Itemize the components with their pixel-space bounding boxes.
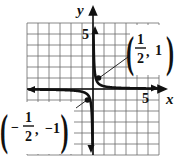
svg-text:): ) bbox=[166, 27, 174, 77]
point-half-one bbox=[96, 75, 102, 81]
annotation-neg-half-neg-one: ( − 1 2 , −1 ) bbox=[0, 102, 74, 155]
y-axis-label: y bbox=[75, 2, 84, 18]
ann2-minus: − bbox=[11, 120, 19, 135]
ann2-denominator: 2 bbox=[25, 129, 32, 144]
leader-line-2 bbox=[76, 100, 87, 108]
annotation-half-one: ( 1 2 , 1 ) bbox=[126, 25, 174, 77]
x-tick-label: 5 bbox=[142, 91, 149, 106]
ann2-numerator: 1 bbox=[25, 110, 32, 125]
svg-text:(: ( bbox=[126, 27, 134, 77]
y-axis-arrow-icon bbox=[90, 7, 97, 15]
ann1-denominator: 2 bbox=[137, 51, 144, 66]
ann2-y-value: −1 bbox=[45, 121, 60, 136]
x-axis-arrow-icon bbox=[158, 86, 166, 93]
svg-text:,: , bbox=[146, 44, 150, 59]
hyperbola-graph: y 5 5 x ( 1 2 , 1 ) ( − 1 2 , −1 ) bbox=[0, 0, 180, 158]
curve-arrow-left-icon bbox=[27, 86, 35, 93]
svg-text:): ) bbox=[61, 105, 69, 155]
leader-line-1 bbox=[99, 57, 128, 78]
x-axis-label: x bbox=[165, 91, 174, 107]
point-neg-half-neg-one bbox=[85, 97, 91, 103]
ann1-y-value: 1 bbox=[155, 43, 162, 58]
svg-text:(: ( bbox=[0, 105, 8, 155]
svg-text:,: , bbox=[35, 122, 39, 137]
y-tick-label: 5 bbox=[82, 27, 89, 42]
ann1-numerator: 1 bbox=[137, 32, 144, 47]
